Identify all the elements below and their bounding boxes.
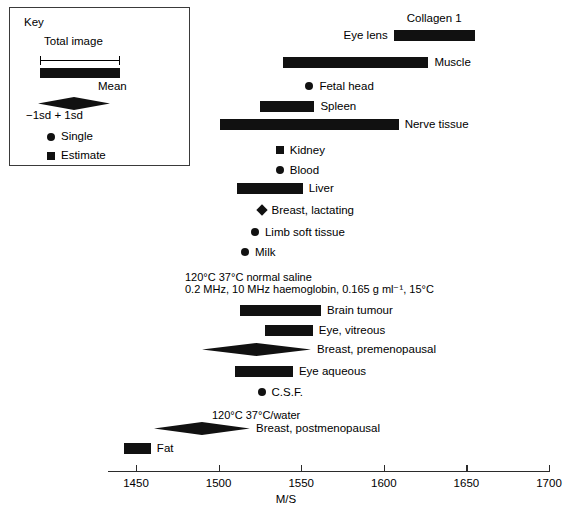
axis-tick-label: 1450 <box>123 477 149 489</box>
key-single-label: Single <box>61 130 93 142</box>
item-label: Eye aqueous <box>299 365 366 377</box>
range-bar <box>394 30 475 41</box>
x-axis-line <box>108 471 550 472</box>
range-bar <box>283 57 428 68</box>
axis-tick <box>219 465 220 471</box>
axis-tick <box>301 465 302 471</box>
axis-tick-label: 1600 <box>371 477 397 489</box>
legend-key-box: Key Total image Mean −1sd + 1sd Single E… <box>9 7 190 166</box>
axis-tick <box>384 465 385 471</box>
range-bar <box>124 443 150 454</box>
axis-tick <box>549 465 550 471</box>
estimate-marker <box>276 146 284 154</box>
item-label: Breast, premenopausal <box>317 343 436 355</box>
x-axis-title: M/S <box>0 493 572 505</box>
key-range-glyph <box>40 56 120 65</box>
item-label: Collagen 1 <box>407 12 462 24</box>
axis-tick <box>136 465 137 471</box>
axis-tick-label: 1500 <box>206 477 232 489</box>
range-bar <box>237 183 303 194</box>
range-bar <box>260 101 315 112</box>
item-label: Limb soft tissue <box>265 226 345 238</box>
single-point-marker <box>305 82 313 90</box>
mean-sd-diamond <box>154 422 250 435</box>
axis-tick-label: 1650 <box>454 477 480 489</box>
range-bar <box>265 325 313 336</box>
range-bar <box>235 366 293 377</box>
key-mean-label: Mean <box>98 80 127 92</box>
item-label: Fetal head <box>319 80 373 92</box>
figure-canvas: Key Total image Mean −1sd + 1sd Single E… <box>0 0 572 509</box>
item-label: Blood <box>290 164 319 176</box>
item-label: Eye lens <box>344 29 388 41</box>
key-sd-diamond-glyph <box>38 96 110 109</box>
single-point-marker <box>258 388 266 396</box>
mean-sd-diamond <box>202 343 311 356</box>
filled-circle-icon <box>47 133 55 141</box>
item-label: C.S.F. <box>272 386 303 398</box>
ann-temp-row3: 120°C 37°C/water <box>212 409 300 422</box>
item-label: Fat <box>157 442 174 454</box>
key-sd-label: −1sd + 1sd <box>26 109 83 121</box>
key-single-entry: Single <box>47 130 93 142</box>
item-label: Milk <box>255 246 275 258</box>
item-label: Kidney <box>290 144 325 156</box>
axis-tick <box>466 465 467 471</box>
item-label: Eye, vitreous <box>319 324 385 336</box>
key-title: Key <box>24 16 44 28</box>
key-estimate-entry: Estimate <box>47 149 106 161</box>
item-label: Muscle <box>434 56 470 68</box>
single-point-marker <box>241 248 249 256</box>
ann-temp-row2: 0.2 MHz, 10 MHz haemoglobin, 0.165 g ml⁻… <box>185 283 434 296</box>
range-bar <box>240 305 321 316</box>
key-estimate-label: Estimate <box>61 149 106 161</box>
item-label: Liver <box>309 182 334 194</box>
axis-tick-label: 1700 <box>536 477 562 489</box>
item-label: Breast, postmenopausal <box>256 422 380 434</box>
diamond-marker <box>256 204 267 215</box>
single-point-marker <box>251 228 259 236</box>
item-label: Spleen <box>320 100 356 112</box>
single-point-marker <box>276 166 284 174</box>
key-total-image-label: Total image <box>44 35 103 47</box>
axis-tick-label: 1550 <box>288 477 314 489</box>
filled-square-icon <box>47 152 55 160</box>
range-bar <box>220 119 398 130</box>
item-label: Breast, lactating <box>272 204 354 216</box>
item-label: Nerve tissue <box>405 118 469 130</box>
item-label: Brain tumour <box>327 304 393 316</box>
key-bar-glyph <box>40 68 120 78</box>
